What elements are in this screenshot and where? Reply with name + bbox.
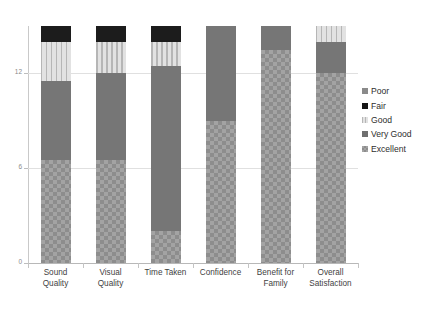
bar-segment-good[interactable] bbox=[96, 42, 126, 74]
legend-swatch-icon-verygood bbox=[362, 131, 368, 137]
bar-segment-excellent[interactable] bbox=[96, 160, 126, 263]
x-axis-label-line: Quality bbox=[77, 279, 144, 290]
legend-label: Excellent bbox=[371, 144, 406, 154]
y-axis-label-0: 0 bbox=[2, 259, 22, 266]
legend-label: Poor bbox=[371, 86, 389, 96]
bar-segment-verygood[interactable] bbox=[41, 81, 71, 160]
legend-item-excellent[interactable]: Excellent bbox=[362, 142, 424, 156]
chart-legend: PoorFairGoodVery GoodExcellent bbox=[362, 84, 424, 156]
y-axis-label-6: 6 bbox=[2, 164, 22, 171]
plot-area bbox=[28, 26, 358, 263]
legend-label: Fair bbox=[371, 101, 386, 111]
bar-segment-verygood[interactable] bbox=[206, 26, 236, 121]
legend-label: Very Good bbox=[371, 129, 412, 139]
bar-segment-excellent[interactable] bbox=[151, 231, 181, 263]
legend-swatch-icon-poor bbox=[362, 88, 368, 94]
bar-segment-excellent[interactable] bbox=[206, 121, 236, 263]
x-axis-label-line: Satisfaction bbox=[297, 279, 364, 290]
bar-segment-fair[interactable] bbox=[96, 26, 126, 42]
bar-column[interactable] bbox=[206, 26, 236, 263]
bar-segment-verygood[interactable] bbox=[261, 26, 291, 50]
legend-item-fair[interactable]: Fair bbox=[362, 98, 424, 112]
x-axis-label-overall-satisfaction: OverallSatisfaction bbox=[297, 268, 364, 289]
stacked-bar-chart: 0612 SoundQualityVisualQualityTime Taken… bbox=[0, 0, 424, 312]
legend-item-good[interactable]: Good bbox=[362, 113, 424, 127]
bar-segment-good[interactable] bbox=[151, 42, 181, 66]
bar-segment-verygood[interactable] bbox=[151, 66, 181, 232]
bar-segment-good[interactable] bbox=[41, 42, 71, 82]
footer-blank-area bbox=[0, 300, 424, 312]
bar-segment-verygood[interactable] bbox=[316, 42, 346, 74]
bar-segment-excellent[interactable] bbox=[41, 160, 71, 263]
legend-swatch-icon-good bbox=[362, 117, 368, 123]
legend-swatch-icon-fair bbox=[362, 103, 368, 109]
bar-segment-excellent[interactable] bbox=[316, 73, 346, 263]
legend-item-poor[interactable]: Poor bbox=[362, 84, 424, 98]
bar-column[interactable] bbox=[151, 26, 181, 263]
bar-column[interactable] bbox=[96, 26, 126, 263]
bar-column[interactable] bbox=[316, 26, 346, 263]
bar-column[interactable] bbox=[261, 26, 291, 263]
legend-swatch-icon-excellent bbox=[362, 146, 368, 152]
bar-segment-fair[interactable] bbox=[41, 26, 71, 42]
y-axis-label-12: 12 bbox=[2, 69, 22, 76]
legend-label: Good bbox=[371, 115, 392, 125]
bar-column[interactable] bbox=[41, 26, 71, 263]
x-axis-label-line: Overall bbox=[297, 268, 364, 279]
bar-segment-excellent[interactable] bbox=[261, 50, 291, 263]
bar-segment-good[interactable] bbox=[316, 26, 346, 42]
legend-item-verygood[interactable]: Very Good bbox=[362, 127, 424, 141]
bar-segment-verygood[interactable] bbox=[96, 73, 126, 160]
bar-segment-fair[interactable] bbox=[151, 26, 181, 42]
